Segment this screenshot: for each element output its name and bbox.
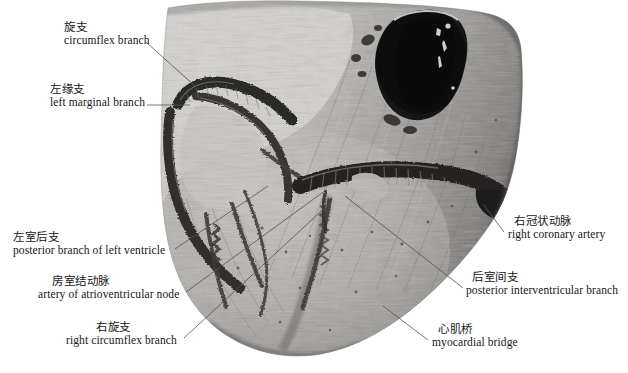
label-right-circumflex-branch-zh: 右旋支 [96,322,177,334]
label-left-marginal-branch-zh: 左缘支 [50,84,145,96]
label-right-circumflex-branch-en: right circumflex branch [66,335,177,347]
label-myocardial-bridge: 心肌桥 myocardial bridge [432,324,518,349]
label-right-coronary-artery-zh: 右冠状动脉 [514,216,605,228]
label-posterior-interventricular-branch-en: posterior interventricular branch [466,285,618,297]
label-circumflex-branch: 旋支 circumflex branch [64,22,150,47]
label-artery-of-atrioventricular-node: 房室结动脉 artery of atrioventricular node [38,276,179,301]
label-posterior-interventricular-branch: 后室间支 posterior interventricular branch [466,272,618,297]
label-myocardial-bridge-en: myocardial bridge [432,337,518,349]
label-left-marginal-branch-en: left marginal branch [50,97,145,109]
label-myocardial-bridge-zh: 心肌桥 [438,324,518,336]
label-circumflex-branch-zh: 旋支 [64,22,150,34]
label-right-circumflex-branch: 右旋支 right circumflex branch [66,322,177,347]
label-circumflex-branch-en: circumflex branch [64,35,150,47]
label-right-coronary-artery: 右冠状动脉 right coronary artery [508,216,605,241]
label-artery-of-atrioventricular-node-en: artery of atrioventricular node [38,289,179,301]
label-posterior-interventricular-branch-zh: 后室间支 [472,272,618,284]
label-artery-of-atrioventricular-node-zh: 房室结动脉 [52,276,179,288]
label-left-marginal-branch: 左缘支 left marginal branch [50,84,145,109]
anatomy-figure: 旋支 circumflex branch 左缘支 left marginal b… [0,0,628,373]
label-right-coronary-artery-en: right coronary artery [508,229,605,241]
label-posterior-branch-of-left-ventricle: 左室后支 posterior branch of left ventricle [13,232,165,257]
specimen-photograph [0,0,628,373]
label-posterior-branch-of-left-ventricle-en: posterior branch of left ventricle [13,245,165,257]
label-posterior-branch-of-left-ventricle-zh: 左室后支 [13,232,165,244]
